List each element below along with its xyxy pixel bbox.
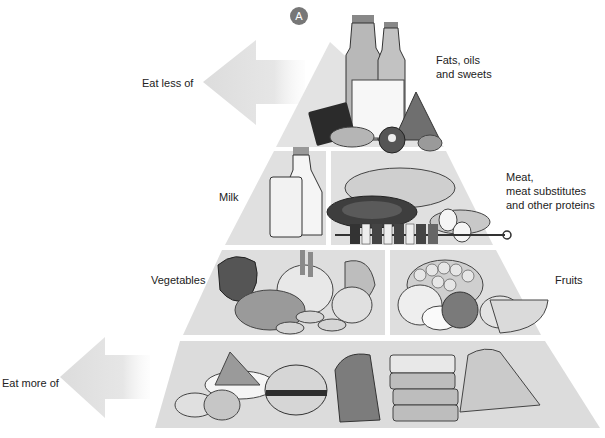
eat-less-arrow-icon: [203, 40, 305, 125]
eat-less-label: Eat less of: [142, 76, 193, 90]
fruits-illustration: [398, 260, 548, 333]
meat-proteins-label: Meat, meat substitutes and other protein…: [506, 170, 595, 212]
eat-more-arrow-icon: [60, 337, 150, 418]
fruits-label: Fruits: [555, 273, 583, 287]
fats-oils-sweets-label: Fats, oils and sweets: [436, 53, 492, 81]
milk-label: Milk: [219, 190, 239, 204]
pyramid-graphic: [0, 0, 605, 438]
figure-badge: A: [290, 7, 308, 25]
eat-more-label: Eat more of: [2, 376, 59, 390]
vegetables-label: Vegetables: [151, 273, 205, 287]
food-pyramid-figure: A Eat less of Eat more of Fats, oils and…: [0, 0, 605, 438]
